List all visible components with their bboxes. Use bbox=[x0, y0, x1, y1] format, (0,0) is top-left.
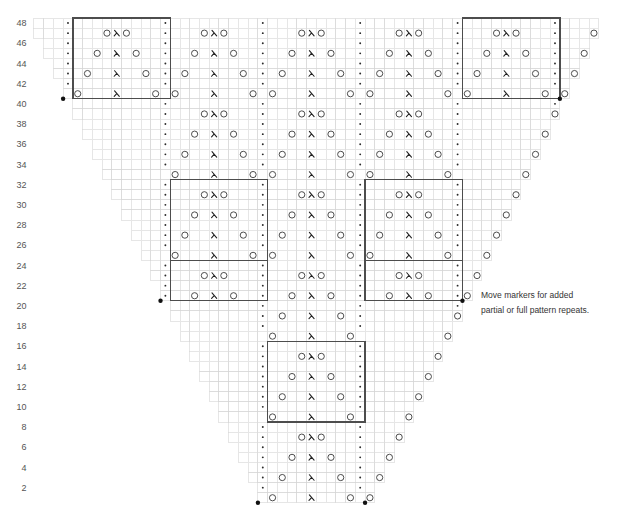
chart-cell bbox=[375, 190, 385, 200]
dot-stitch-icon bbox=[359, 467, 361, 469]
chart-cell bbox=[131, 89, 141, 99]
chart-cell bbox=[122, 79, 132, 89]
chart-cell bbox=[297, 493, 307, 503]
chart-cell bbox=[482, 200, 492, 210]
dot-stitch-icon bbox=[359, 63, 361, 65]
chart-cell bbox=[248, 149, 258, 159]
chart-cell bbox=[443, 38, 453, 48]
chart-cell bbox=[346, 402, 356, 412]
chart-cell bbox=[385, 119, 395, 129]
chart-cell bbox=[424, 38, 434, 48]
chart-cell bbox=[375, 180, 385, 190]
chart-cell bbox=[482, 220, 492, 230]
dot-stitch-icon bbox=[262, 133, 264, 135]
chart-cell bbox=[326, 79, 336, 89]
chart-cell bbox=[277, 159, 287, 169]
chart-cell bbox=[326, 473, 336, 483]
chart-cell bbox=[433, 250, 443, 260]
chart-cell bbox=[462, 159, 472, 169]
chart-cell bbox=[307, 220, 317, 230]
chart-cell bbox=[238, 129, 248, 139]
chart-cell bbox=[248, 38, 258, 48]
chart-cell bbox=[433, 48, 443, 58]
chart-cell bbox=[307, 18, 317, 28]
chart-cell bbox=[346, 432, 356, 442]
chart-cell bbox=[238, 119, 248, 129]
chart-cell bbox=[462, 69, 472, 79]
chart-cell bbox=[424, 200, 434, 210]
chart-cell bbox=[297, 412, 307, 422]
dot-stitch-icon bbox=[262, 396, 264, 398]
chart-cell bbox=[346, 240, 356, 250]
chart-cell bbox=[268, 180, 278, 190]
chart-cell bbox=[501, 200, 511, 210]
chart-cell bbox=[209, 341, 219, 351]
chart-cell bbox=[472, 230, 482, 240]
chart-cell bbox=[365, 180, 375, 190]
chart-cell bbox=[326, 69, 336, 79]
chart-cell bbox=[229, 402, 239, 412]
chart-cell bbox=[365, 473, 375, 483]
chart-cell bbox=[199, 361, 209, 371]
chart-cell bbox=[209, 99, 219, 109]
dot-stitch-icon bbox=[359, 275, 361, 277]
chart-cell bbox=[297, 483, 307, 493]
chart-cell bbox=[141, 230, 151, 240]
chart-cell bbox=[277, 331, 287, 341]
chart-row-23 bbox=[151, 271, 482, 281]
chart-cell bbox=[122, 18, 132, 28]
chart-cell bbox=[346, 361, 356, 371]
chart-cell bbox=[453, 89, 463, 99]
chart-cell bbox=[238, 341, 248, 351]
dot-stitch-icon bbox=[262, 386, 264, 388]
chart-cell bbox=[151, 220, 161, 230]
chart-cell bbox=[297, 79, 307, 89]
chart-cell bbox=[443, 180, 453, 190]
chart-cell bbox=[472, 18, 482, 28]
chart-cell bbox=[394, 422, 404, 432]
chart-cell bbox=[199, 99, 209, 109]
dot-stitch-icon bbox=[164, 164, 166, 166]
chart-cell bbox=[287, 412, 297, 422]
chart-cell bbox=[365, 109, 375, 119]
chart-cell bbox=[248, 361, 258, 371]
chart-cell bbox=[316, 452, 326, 462]
dot-stitch-icon bbox=[457, 52, 459, 54]
chart-cell bbox=[375, 392, 385, 402]
chart-cell bbox=[316, 170, 326, 180]
chart-cell bbox=[170, 109, 180, 119]
chart-cell bbox=[112, 79, 122, 89]
chart-cell bbox=[219, 129, 229, 139]
dot-stitch-icon bbox=[262, 32, 264, 34]
chart-cell bbox=[336, 139, 346, 149]
chart-cell bbox=[190, 79, 200, 89]
chart-cell bbox=[531, 89, 541, 99]
chart-cell bbox=[385, 220, 395, 230]
chart-cell bbox=[229, 331, 239, 341]
chart-cell bbox=[316, 240, 326, 250]
chart-cell bbox=[277, 452, 287, 462]
chart-cell bbox=[326, 281, 336, 291]
chart-cell bbox=[287, 392, 297, 402]
chart-cell bbox=[268, 129, 278, 139]
chart-cell bbox=[141, 38, 151, 48]
chart-cell bbox=[385, 402, 395, 412]
chart-cell bbox=[433, 281, 443, 291]
chart-row-7 bbox=[229, 432, 404, 442]
chart-cell bbox=[424, 180, 434, 190]
chart-cell bbox=[346, 260, 356, 270]
chart-cell bbox=[443, 200, 453, 210]
chart-cell bbox=[414, 311, 424, 321]
chart-cell bbox=[443, 220, 453, 230]
chart-cell bbox=[229, 170, 239, 180]
chart-cell bbox=[492, 18, 502, 28]
chart-cell bbox=[365, 483, 375, 493]
chart-cell bbox=[424, 109, 434, 119]
chart-cell bbox=[385, 250, 395, 260]
chart-cell bbox=[248, 210, 258, 220]
chart-cell bbox=[365, 452, 375, 462]
chart-cell bbox=[570, 38, 580, 48]
chart-cell bbox=[277, 372, 287, 382]
dot-stitch-icon bbox=[164, 234, 166, 236]
chart-cell bbox=[287, 493, 297, 503]
